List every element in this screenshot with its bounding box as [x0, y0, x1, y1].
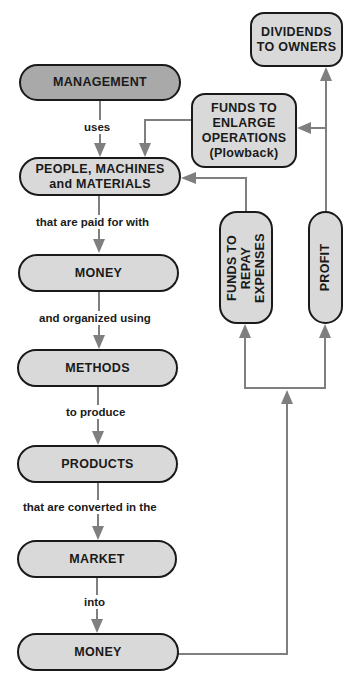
edge-label-uses: uses: [83, 120, 111, 134]
node-enlarge-line4: (Plowback): [210, 146, 279, 161]
node-enlarge-line3: OPERATIONS: [202, 131, 287, 146]
node-products: PRODUCTS: [17, 445, 178, 483]
node-dividends-to-owners: DIVIDENDS TO OWNERS: [250, 12, 343, 67]
connector-split: [245, 335, 325, 388]
node-repay-line1: FUNDS TO: [225, 233, 239, 303]
node-methods: METHODS: [17, 349, 178, 387]
edge-label-converted: that are converted in the: [22, 500, 158, 514]
node-people-line1: PEOPLE, MACHINES: [35, 162, 164, 177]
node-repay-text: FUNDS TO REPAY EXPENSES: [225, 233, 267, 303]
node-funds-to-enlarge-operations: FUNDS TO ENLARGE OPERATIONS (Plowback): [191, 93, 297, 168]
node-products-label: PRODUCTS: [61, 457, 134, 472]
arrow-up-icon: [281, 390, 293, 404]
node-funds-to-repay-expenses: FUNDS TO REPAY EXPENSES: [219, 211, 273, 324]
edge-label-into: into: [83, 595, 106, 609]
arrow-up-icon: [239, 324, 251, 338]
arrow-up-icon: [320, 67, 332, 81]
arrow-down-icon: [94, 143, 106, 157]
node-money-return-label: MONEY: [74, 645, 121, 660]
arrow-down-icon: [92, 526, 104, 540]
node-repay-line3: EXPENSES: [253, 233, 267, 303]
node-enlarge-line2: ENLARGE: [212, 116, 275, 131]
connector-plowback-people: [145, 120, 191, 146]
edge-label-produce: to produce: [65, 405, 126, 419]
node-money-return: MONEY: [17, 633, 179, 671]
arrow-down-icon: [139, 143, 151, 157]
node-management: MANAGEMENT: [19, 64, 181, 101]
node-methods-label: METHODS: [65, 361, 130, 376]
edge-label-paid-for: that are paid for with: [35, 215, 150, 229]
arrow-down-icon: [91, 619, 103, 633]
node-market-label: MARKET: [69, 552, 124, 567]
arrow-left-icon: [297, 122, 311, 134]
arrow-down-icon: [93, 239, 105, 253]
node-management-label: MANAGEMENT: [53, 75, 147, 90]
node-people-machines-materials: PEOPLE, MACHINES and MATERIALS: [19, 157, 181, 196]
node-people-line2: and MATERIALS: [49, 177, 151, 192]
node-dividends-line1: DIVIDENDS: [261, 25, 332, 40]
node-profit: PROFIT: [308, 211, 343, 324]
connector-money-return: [178, 402, 287, 654]
node-money: MONEY: [18, 254, 179, 292]
node-dividends-line2: TO OWNERS: [257, 40, 337, 55]
arrow-down-icon: [92, 431, 104, 445]
node-money-label: MONEY: [75, 266, 122, 281]
node-repay-line2: REPAY: [239, 233, 253, 303]
node-profit-label: PROFIT: [318, 244, 333, 292]
arrow-down-icon: [93, 335, 105, 349]
node-market: MARKET: [17, 540, 177, 578]
edge-label-organized: and organized using: [38, 311, 152, 325]
arrow-up-icon: [319, 324, 331, 338]
node-enlarge-line1: FUNDS TO: [211, 101, 277, 116]
arrow-left-icon: [181, 172, 196, 184]
connector-repay-people: [194, 178, 246, 212]
business-flow-diagram: MANAGEMENT uses PEOPLE, MACHINES and MAT…: [0, 0, 353, 676]
